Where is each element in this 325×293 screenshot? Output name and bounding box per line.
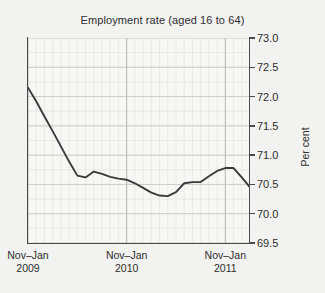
- x-axis-year: 2010: [87, 262, 167, 275]
- chart-title: Employment rate (aged 16 to 64): [0, 14, 325, 26]
- y-axis-tick: [250, 96, 255, 97]
- y-axis-tick: [250, 67, 255, 68]
- y-axis-tick: [250, 242, 255, 243]
- y-axis-tick-label: 70.5: [257, 178, 278, 190]
- y-axis-title: Per cent: [298, 127, 310, 166]
- y-axis-tick: [250, 213, 255, 214]
- y-axis-tick-label: 71.0: [257, 149, 278, 161]
- x-axis-tick-label: Nov–Jan2010: [87, 249, 167, 275]
- x-axis-period: Nov–Jan: [0, 249, 68, 262]
- x-axis-tick-label: Nov–Jan2011: [185, 249, 265, 275]
- employment-rate-chart: Employment rate (aged 16 to 64) 73.072.5…: [0, 0, 325, 293]
- y-axis-tick-label: 69.5: [257, 237, 278, 249]
- x-axis-year: 2011: [185, 262, 265, 275]
- y-axis-tick: [250, 154, 255, 155]
- y-axis-tick-label: 72.0: [257, 91, 278, 103]
- x-axis-year: 2009: [0, 262, 68, 275]
- y-axis-tick: [250, 37, 255, 38]
- y-axis-left-spine: [27, 37, 28, 244]
- x-axis-period: Nov–Jan: [87, 249, 167, 262]
- x-axis-period: Nov–Jan: [185, 249, 265, 262]
- plot-area: [28, 38, 250, 243]
- y-axis-tick-label: 71.5: [257, 120, 278, 132]
- y-axis-tick-label: 73.0: [257, 32, 278, 44]
- y-axis-tick-label: 70.0: [257, 208, 278, 220]
- y-axis-tick: [250, 125, 255, 126]
- x-axis-tick-label: Nov–Jan2009: [0, 249, 68, 275]
- x-axis-spine: [27, 243, 251, 244]
- y-axis-tick-label: 72.5: [257, 61, 278, 73]
- y-axis-tick: [250, 184, 255, 185]
- data-series-line: [28, 38, 250, 243]
